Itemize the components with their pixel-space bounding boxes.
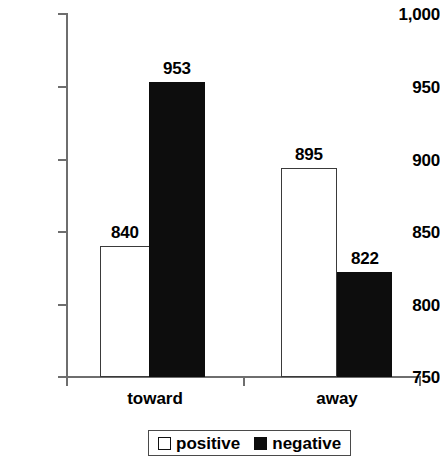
y-tick-850 — [58, 231, 67, 233]
y-tick-label-950: 950 — [388, 79, 440, 96]
y-tick-1000 — [58, 13, 67, 15]
bar-toward-negative — [149, 82, 205, 377]
y-tick-950 — [58, 86, 67, 88]
bar-label-toward-negative: 953 — [147, 60, 207, 77]
x-category-label-toward: toward — [113, 390, 197, 407]
y-tick-800 — [58, 304, 67, 306]
y-tick-label-1000: 1,000 — [388, 6, 440, 23]
y-tick-label-750: 750 — [388, 369, 440, 386]
legend-entry-negative: negative — [254, 435, 341, 452]
y-tick-label-900: 900 — [388, 152, 440, 169]
bar-away-negative — [337, 272, 392, 377]
legend-swatch-positive-icon — [158, 437, 171, 450]
legend-label-negative: negative — [272, 435, 341, 452]
bar-label-away-positive: 895 — [279, 146, 339, 163]
bar-chart: 1,000 950 900 850 800 750 840 953 895 82… — [0, 0, 440, 464]
bar-label-away-negative: 822 — [335, 250, 395, 267]
y-tick-900 — [58, 159, 67, 161]
x-tick-start — [66, 377, 68, 386]
x-tick-mid — [243, 377, 245, 386]
y-axis-line — [66, 13, 68, 378]
legend-entry-positive: positive — [158, 435, 240, 452]
legend-label-positive: positive — [176, 435, 240, 452]
chart-legend: positive negative — [148, 430, 351, 456]
legend-swatch-negative-icon — [254, 437, 267, 450]
bar-away-positive — [281, 168, 337, 377]
y-tick-label-800: 800 — [388, 297, 440, 314]
y-tick-label-850: 850 — [388, 224, 440, 241]
bar-label-toward-positive: 840 — [95, 224, 155, 241]
bar-toward-positive — [100, 246, 150, 377]
x-category-label-away: away — [295, 390, 379, 407]
x-tick-end — [419, 377, 421, 386]
